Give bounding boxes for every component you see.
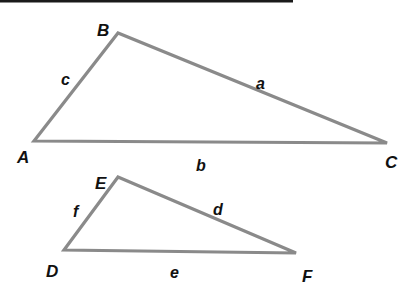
side-label-c: c — [61, 71, 70, 88]
vertex-label-a: A — [16, 148, 29, 167]
side-label-f: f — [73, 203, 80, 220]
side-label-e: e — [170, 264, 179, 281]
triangle-def: E D F f d e — [46, 174, 313, 286]
vertex-label-b: B — [97, 21, 109, 40]
vertex-label-e: E — [95, 174, 107, 193]
vertex-label-c: C — [385, 153, 398, 172]
triangle-abc-outline — [34, 33, 387, 143]
triangle-abc: A B C c a b — [16, 21, 398, 174]
triangle-diagram: A B C c a b E D F f d e — [0, 0, 411, 290]
vertex-label-d: D — [46, 262, 58, 281]
side-label-a: a — [256, 75, 265, 92]
side-label-d: d — [213, 201, 224, 218]
vertex-label-f: F — [302, 267, 313, 286]
side-label-b: b — [196, 157, 206, 174]
